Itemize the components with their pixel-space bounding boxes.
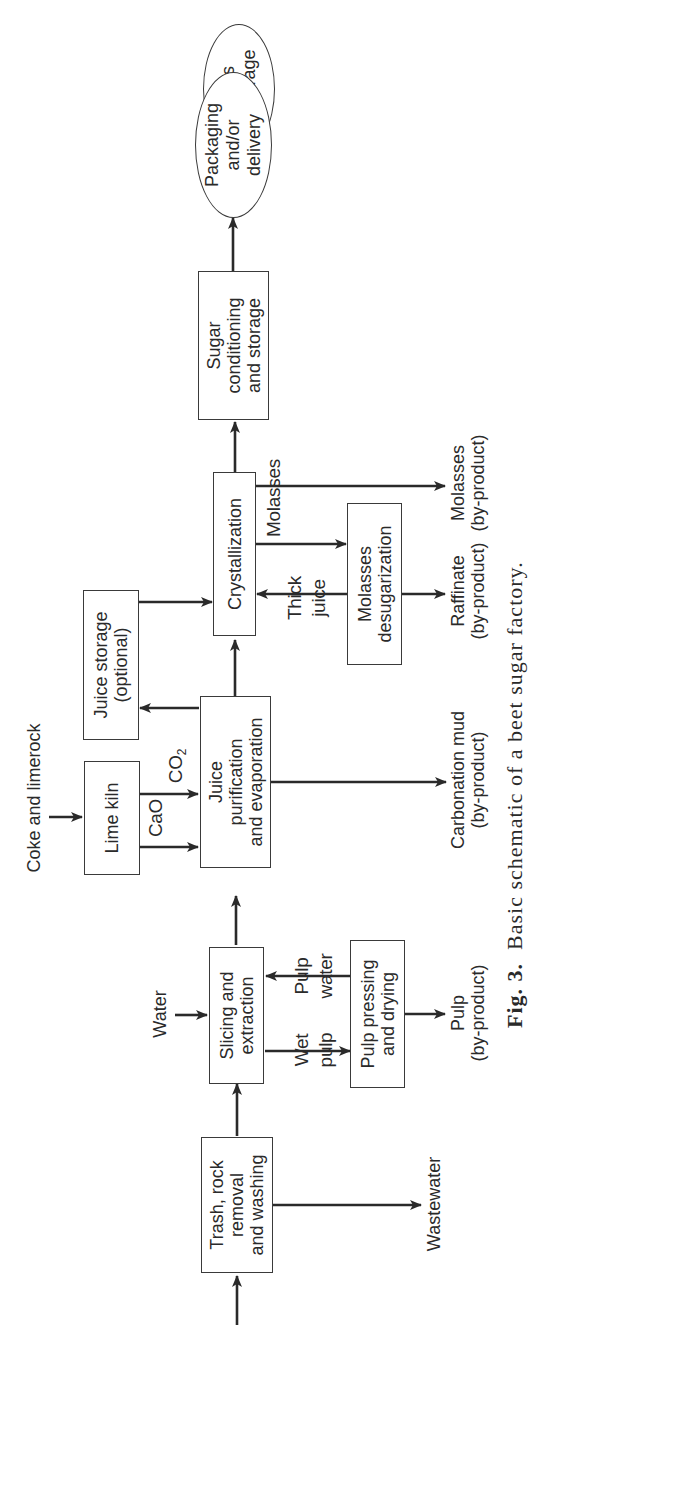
node-juice-storage: Juice storage (optional) [83, 590, 139, 740]
output-pulp: Pulp (by-product) [448, 958, 488, 1068]
flow-label-thick-juice: Thick juice [283, 568, 331, 628]
node-molasses-desugarization: Molasses desugarization [347, 503, 402, 665]
node-trash-rock-removal-washing: Trash, rock removal and washing [201, 1137, 273, 1273]
node-juice-purification-evaporation: Juice purification and evaporation [200, 696, 271, 868]
node-lime-kiln-label: Lime kiln [102, 782, 122, 853]
node-pulp-pressing-label: Pulp pressing and drying [358, 959, 398, 1068]
flow-arrows [0, 0, 674, 1508]
flow-label-pulp-water: Pulp water [290, 946, 338, 1006]
input-coke-limerock: Coke and limerock [24, 708, 44, 888]
figure-caption: Fig. 3. Basic schematic of a beet sugar … [502, 561, 528, 1028]
flow-label-cao: CaO [146, 798, 166, 838]
output-wastewater: Wastewater [424, 1149, 444, 1259]
flow-label-co2: CO2 [146, 746, 192, 786]
input-water: Water [150, 984, 170, 1044]
node-slicing-label: Slicing and extraction [217, 971, 257, 1059]
node-sugar-conditioning-storage: Sugar conditioning and storage [198, 271, 269, 420]
node-packaging-delivery: Packaging and/or delivery [195, 72, 272, 218]
node-packaging-label: Packaging and/or delivery [202, 103, 265, 187]
node-crystallization: Crystallization [213, 472, 256, 636]
beet-sugar-flow-diagram: Beets in storage Trash, rock removal and… [0, 0, 674, 1508]
node-crystallization-label: Crystallization [225, 498, 245, 610]
node-pulp-pressing-drying: Pulp pressing and drying [350, 940, 405, 1088]
figure-caption-text: Basic schematic of a beet sugar factory. [502, 561, 527, 950]
output-molasses: Molasses (by-product) [448, 428, 488, 538]
node-slicing-extraction: Slicing and extraction [209, 947, 264, 1084]
node-molasses-desugarization-label: Molasses desugarization [355, 525, 395, 642]
output-carbonation-mud: Carbonation mud (by-product) [448, 700, 488, 860]
node-juice-purification-label: Juice purification and evaporation [206, 717, 266, 846]
node-sugar-conditioning-label: Sugar conditioning and storage [204, 297, 264, 393]
flow-label-molasses: Molasses [264, 458, 284, 538]
flow-label-co2-subscript: 2 [175, 749, 189, 755]
output-raffinate: Raffinate (by-product) [448, 536, 488, 646]
node-trash-label: Trash, rock removal and washing [207, 1154, 267, 1255]
flow-label-co2-base: CO [165, 755, 186, 783]
figure-number: Fig. 3. [502, 963, 527, 1028]
node-juice-storage-label: Juice storage (optional) [91, 611, 131, 718]
node-lime-kiln: Lime kiln [84, 761, 140, 875]
flow-label-wet-pulp: Wet pulp [290, 1020, 338, 1080]
